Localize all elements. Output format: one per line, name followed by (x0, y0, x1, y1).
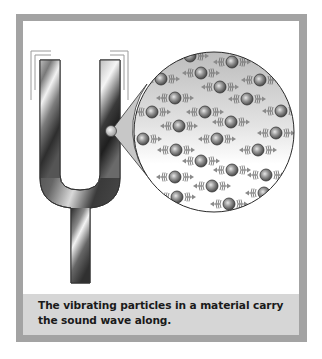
tuning-fork (40, 60, 120, 283)
caption-text: The vibrating particles in a material ca… (38, 298, 293, 327)
figure-frame: The vibrating particles in a material ca… (16, 14, 307, 342)
callout-point (106, 126, 117, 137)
figure-panel: The vibrating particles in a material ca… (23, 21, 299, 335)
tuning-fork-illustration (23, 21, 299, 315)
caption-band: The vibrating particles in a material ca… (23, 294, 299, 335)
